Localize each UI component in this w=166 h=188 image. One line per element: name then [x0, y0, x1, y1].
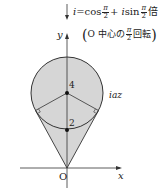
- region-label: iaz: [109, 91, 122, 100]
- x-axis-label: x: [118, 171, 124, 181]
- annotation-line2: (O 中心のπ2回転): [82, 27, 157, 42]
- point-2: [65, 128, 69, 132]
- fraction-pi-over-2: π2: [102, 5, 109, 20]
- origin-label: O: [59, 172, 67, 182]
- fraction-pi-over-2-b: π2: [141, 5, 148, 20]
- center-label: 4: [69, 81, 75, 90]
- rotation-arrow-icon: [65, 4, 69, 20]
- y-axis-label: y: [57, 30, 63, 40]
- point-2-label: 2: [69, 119, 75, 128]
- center-point: [65, 91, 69, 95]
- annotation-line1: i=cosπ2+ isinπ2倍: [73, 5, 158, 20]
- fraction-pi-over-2-c: π2: [126, 27, 133, 42]
